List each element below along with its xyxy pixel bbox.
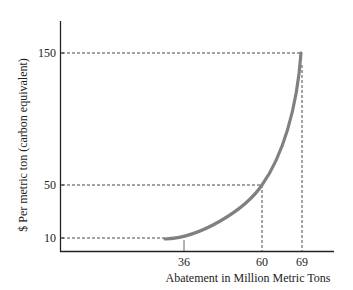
cost-curve	[165, 53, 301, 239]
x-axis-label: Abatement in Million Metric Tons	[166, 271, 331, 285]
x-tick-60: 60	[256, 255, 268, 269]
y-tick-50: 50	[44, 178, 56, 192]
reference-lines	[62, 53, 302, 251]
chart: 150 50 10 36 60 69 Abatement in Million …	[0, 0, 353, 290]
y-tick-150: 150	[38, 46, 56, 60]
x-tick-69: 69	[296, 255, 308, 269]
y-tick-10: 10	[44, 231, 56, 245]
y-axis-label: $ Per metric ton (carbon equivalent)	[16, 58, 30, 232]
x-tick-36: 36	[178, 255, 190, 269]
